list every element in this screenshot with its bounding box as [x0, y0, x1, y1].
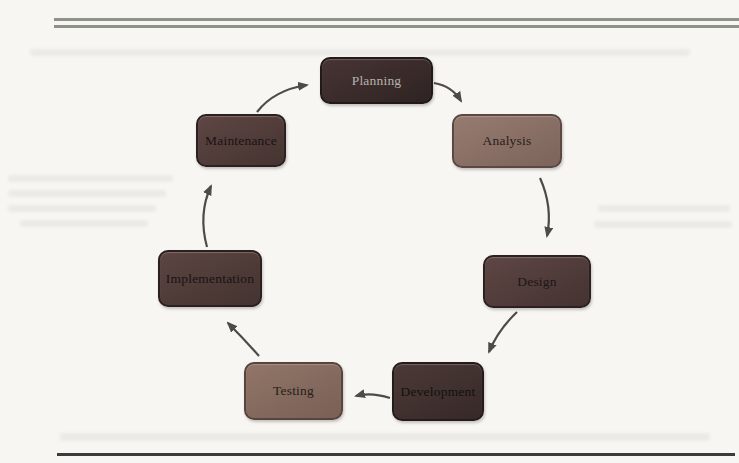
node-testing: Testing — [244, 362, 343, 420]
node-testing-label: Testing — [273, 383, 314, 399]
node-development: Development — [392, 362, 484, 421]
ghost-text-artifact — [598, 205, 730, 212]
arrow-design-to-development — [489, 312, 517, 352]
arrow-maintenance-to-planning — [257, 85, 307, 112]
ghost-text-artifact — [8, 190, 166, 197]
top-rule-upper — [54, 18, 739, 21]
node-implementation-label: Implementation — [166, 271, 254, 287]
arrow-analysis-to-design — [540, 178, 549, 236]
node-analysis-label: Analysis — [483, 133, 532, 149]
node-planning-label: Planning — [352, 73, 402, 89]
top-rule-lower — [54, 25, 739, 28]
node-design: Design — [483, 255, 591, 308]
document-page: Planning Analysis Design Development Tes… — [0, 0, 739, 463]
ghost-text-artifact — [8, 205, 156, 212]
node-implementation: Implementation — [158, 250, 262, 307]
arrow-testing-to-implementation — [228, 323, 259, 356]
ghost-text-artifact — [30, 49, 690, 56]
node-analysis: Analysis — [452, 114, 562, 168]
arrow-development-to-testing — [356, 394, 390, 398]
bottom-rule — [57, 453, 735, 456]
node-planning: Planning — [320, 57, 433, 104]
node-maintenance: Maintenance — [196, 114, 286, 167]
ghost-text-artifact — [60, 433, 710, 441]
ghost-text-artifact — [594, 221, 732, 228]
arrow-implementation-to-maintenance — [203, 186, 211, 247]
node-maintenance-label: Maintenance — [205, 133, 277, 149]
ghost-text-artifact — [20, 220, 148, 227]
arrow-planning-to-analysis — [434, 83, 461, 101]
ghost-text-artifact — [8, 175, 173, 182]
node-design-label: Design — [517, 274, 556, 290]
node-development-label: Development — [401, 384, 476, 400]
